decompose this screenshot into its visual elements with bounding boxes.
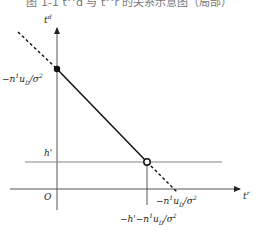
label-part: /σ bbox=[164, 214, 173, 224]
label-part: −n bbox=[2, 74, 15, 84]
dashed-extension-upper bbox=[18, 32, 57, 69]
label-part: /σ bbox=[30, 74, 39, 84]
label-part: /σ bbox=[184, 196, 193, 206]
diagram-svg bbox=[0, 0, 259, 232]
kink-x-label: −h'−n1uD/σ2 bbox=[120, 213, 177, 226]
diagram-canvas: 图 1-1 t^d 与 t^r 的关系示意图（局部） td tr bbox=[0, 0, 259, 232]
open-point bbox=[144, 159, 150, 165]
label-part: −h'−n bbox=[120, 214, 149, 224]
horizontal-axis-superscript: r bbox=[247, 189, 250, 196]
vertical-axis-superscript: d bbox=[48, 13, 52, 20]
vertical-axis-label: td bbox=[44, 14, 51, 25]
label-part: 2 bbox=[173, 212, 177, 219]
label-part: 2 bbox=[193, 194, 197, 201]
label-part: −n bbox=[156, 196, 169, 206]
horizontal-axis-label: tr bbox=[243, 190, 250, 201]
solid-segment bbox=[57, 69, 147, 162]
x-intercept-label: −n1uD/σ2 bbox=[156, 195, 197, 208]
origin-label: O bbox=[44, 193, 51, 202]
filled-point bbox=[54, 66, 60, 72]
label-part: 2 bbox=[39, 72, 43, 79]
y-intercept-label: −n1uD/σ2 bbox=[2, 73, 43, 86]
dashed-extension-lower bbox=[147, 162, 178, 193]
h-prime-label: h' bbox=[44, 149, 52, 158]
